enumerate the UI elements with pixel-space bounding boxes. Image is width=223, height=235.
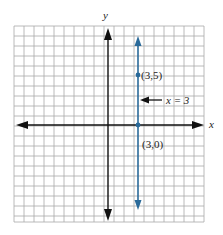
point-3-5 [136,73,141,78]
line-up-arrow-icon [135,36,142,46]
equation-label: x = 3 [165,94,190,106]
x-axis-label: x [208,118,214,130]
line-down-arrow-icon [135,200,142,210]
x-axis-right-arrow-icon [192,121,204,129]
point-3-0 [136,123,141,128]
y-axis-down-arrow-icon [104,209,112,221]
x-axis-left-arrow-icon [16,121,28,129]
grid [14,26,204,222]
point-label-3-0: (3,0) [142,138,163,151]
y-axis-label: y [102,9,108,21]
equation-pointer-arrow-icon [140,97,162,104]
coordinate-plane: y x (3,5) (3,0) x = 3 [0,0,223,235]
point-label-3-5: (3,5) [141,69,162,82]
y-axis-up-arrow-icon [104,28,112,40]
